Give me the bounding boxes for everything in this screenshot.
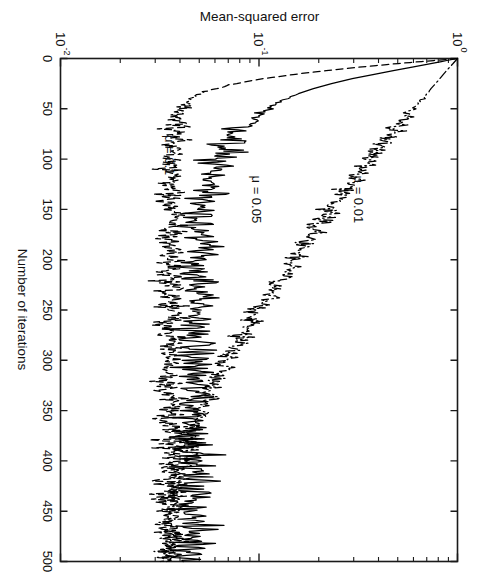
y-axis-tick-labels: 10010-110-2 [52,32,468,55]
y-tick-label: 10-2 [52,32,71,55]
mu-001-label: μ = 0.01 [350,175,365,223]
svg-text:-1: -1 [260,47,270,55]
svg-text:10: 10 [449,32,464,46]
series-line-2 [162,58,457,561]
series-annotations: μ = 0.01μ = 0.05μ = 0.1 [161,134,365,222]
x-tick-label: 500 [39,550,54,572]
mu-005-label: μ = 0.05 [248,175,263,223]
svg-text:-2: -2 [61,47,71,55]
plot-frame [60,58,457,561]
x-tick-label: 300 [39,349,54,371]
mean-squared-error-plot: 050100150200250300350400450500 10010-110… [0,0,479,586]
x-tick-label: 350 [39,399,54,421]
y-axis-title: Mean-squared error [199,8,319,23]
y-axis-ticks [60,58,457,561]
x-axis-title: Number of iterations [14,248,29,370]
svg-text:10: 10 [52,32,67,46]
svg-text:0: 0 [458,47,468,52]
rotated-page-stage: 050100150200250300350400450500 10010-110… [0,0,479,586]
data-curves [148,58,457,561]
x-tick-label: 400 [39,450,54,472]
y-tick-label: 10-1 [251,32,270,55]
x-tick-label: 250 [39,299,54,321]
y-tick-label: 100 [449,32,468,52]
x-axis-ticks [60,58,457,561]
x-tick-label: 150 [39,198,54,220]
x-tick-label: 100 [39,148,54,170]
x-axis-tick-labels: 050100150200250300350400450500 [39,54,54,571]
x-tick-label: 450 [39,500,54,522]
chart-figure: 050100150200250300350400450500 10010-110… [0,0,479,586]
x-tick-label: 200 [39,248,54,270]
mu-01-label: μ = 0.1 [161,134,176,174]
x-tick-label: 50 [39,101,54,115]
svg-text:10: 10 [251,32,266,46]
x-tick-label: 0 [39,54,54,61]
